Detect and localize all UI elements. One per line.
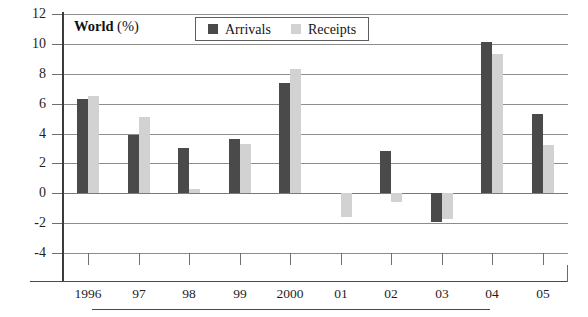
legend-swatch-arrivals-icon <box>208 24 218 34</box>
bar-arrivals-1996 <box>77 99 88 193</box>
bar-receipts-02 <box>391 193 402 202</box>
legend-label-arrivals: Arrivals <box>225 22 271 37</box>
bar-arrivals-02 <box>380 151 391 193</box>
xtick-mark-05 <box>543 253 544 265</box>
xtick-mark-1996 <box>88 253 89 265</box>
x-axis-line <box>30 281 568 282</box>
bar-receipts-01 <box>341 193 352 217</box>
plot-right-edge <box>567 265 568 282</box>
bar-receipts-97 <box>139 117 150 193</box>
bar-receipts-2000 <box>290 69 301 193</box>
ytick-label-0: 0 <box>12 186 46 200</box>
xtick-mark-97 <box>139 253 140 265</box>
xtick-mark-01 <box>341 253 342 265</box>
bar-arrivals-04 <box>481 42 492 193</box>
bar-receipts-05 <box>543 145 554 193</box>
bar-arrivals-2000 <box>279 83 290 194</box>
bar-arrivals-03 <box>431 193 442 221</box>
bars-layer <box>63 14 568 253</box>
bar-receipts-03 <box>442 193 453 218</box>
bar-receipts-98 <box>189 189 200 193</box>
xtick-label-05: 05 <box>513 286 573 301</box>
xtick-mark-2000 <box>290 253 291 265</box>
ytick-label-4: 4 <box>12 127 46 141</box>
ytick-label-8: 8 <box>12 67 46 81</box>
legend-label-receipts: Receipts <box>308 22 356 37</box>
xtick-mark-99 <box>240 253 241 265</box>
bar-chart: 12 10 8 6 4 2 0 -2 -4 199697989920000102… <box>0 0 588 317</box>
bar-arrivals-97 <box>128 135 139 193</box>
bar-arrivals-05 <box>532 114 543 193</box>
ytick-label-12: 12 <box>12 7 46 21</box>
ytick-label-minus-2: -2 <box>12 216 46 230</box>
ytick-label-minus-4: -4 <box>12 246 46 260</box>
xtick-mark-02 <box>391 253 392 265</box>
chart-title-unit: (%) <box>117 18 139 34</box>
legend-swatch-receipts-icon <box>291 24 301 34</box>
chart-title: World (%) <box>74 18 139 35</box>
bar-arrivals-98 <box>178 148 189 193</box>
ytick-label-10: 10 <box>12 37 46 51</box>
chart-title-text: World <box>74 18 113 34</box>
legend-entry-arrivals: Arrivals <box>208 22 271 37</box>
xtick-mark-98 <box>189 253 190 265</box>
xtick-mark-04 <box>492 253 493 265</box>
legend-entry-receipts: Receipts <box>291 22 356 37</box>
footer-rule <box>92 309 490 310</box>
ytick-label-2: 2 <box>12 156 46 170</box>
bar-receipts-1996 <box>88 96 99 193</box>
bar-arrivals-99 <box>229 139 240 193</box>
xtick-mark-03 <box>442 253 443 265</box>
ytick-label-6: 6 <box>12 97 46 111</box>
legend: Arrivals Receipts <box>195 17 369 41</box>
bar-receipts-04 <box>492 54 503 193</box>
bar-receipts-99 <box>240 144 251 193</box>
